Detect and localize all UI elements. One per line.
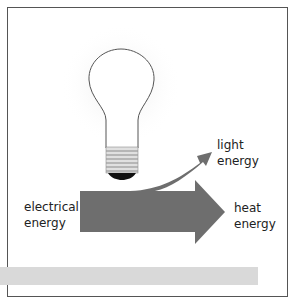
heat-label-line2: energy — [234, 216, 276, 232]
heat-label-line1: heat — [234, 200, 276, 216]
light-label-line2: energy — [217, 153, 259, 169]
input-label: electrical energy — [24, 199, 79, 231]
input-label-line1: electrical — [24, 199, 79, 215]
light-output-label: light energy — [217, 137, 259, 169]
input-label-line2: energy — [24, 215, 79, 231]
light-label-line1: light — [217, 137, 259, 153]
caption-bar — [0, 267, 258, 285]
energy-arrows — [80, 152, 225, 244]
heat-output-label: heat energy — [234, 200, 276, 232]
